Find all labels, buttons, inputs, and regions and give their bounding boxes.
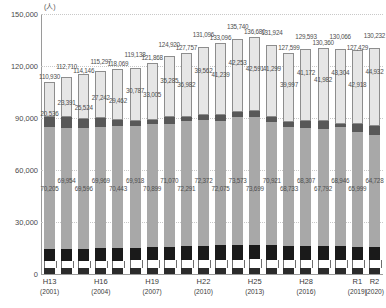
bar-segment-black-band xyxy=(164,247,175,260)
bar-middle-segment-label: 70,443 xyxy=(109,185,127,192)
bar-segment-light-top xyxy=(164,56,175,117)
bar-segment-black-band xyxy=(215,245,226,259)
stacked-bar[interactable] xyxy=(198,47,209,274)
bar-middle-segment-label: 64,728 xyxy=(365,177,383,184)
bar-column[interactable] xyxy=(41,14,58,274)
bar-top-segment-label: 42,591 xyxy=(246,65,264,72)
x-axis-group-label: H13(2001) xyxy=(40,277,59,296)
stacked-bar[interactable] xyxy=(164,56,175,274)
bar-column[interactable] xyxy=(366,14,383,274)
stacked-bar[interactable] xyxy=(130,68,141,274)
bar-column[interactable] xyxy=(349,14,366,274)
bar-segment-white-band xyxy=(283,260,296,268)
bar-top-segment-label: 42,253 xyxy=(229,59,247,66)
x-axis-year: (2020) xyxy=(365,287,384,297)
y-axis-tick-label: 0 xyxy=(0,270,38,279)
bar-column[interactable] xyxy=(212,14,229,274)
x-axis-year: (2013) xyxy=(245,287,264,297)
bar-column[interactable] xyxy=(332,14,349,274)
bar-segment-white-band xyxy=(300,260,313,268)
bar-segment-bottom-dark xyxy=(147,268,158,274)
bar-segment-white-band xyxy=(181,260,194,268)
bar-top-segment-label: 35,285 xyxy=(160,77,178,84)
stacked-bar[interactable] xyxy=(335,49,346,274)
bar-segment-black-band xyxy=(44,249,55,261)
bar-middle-segment-label: 73,573 xyxy=(229,177,247,184)
bar-segment-dark-grey xyxy=(95,118,106,127)
bar-segment-grey-main xyxy=(164,124,175,247)
bar-top-segment-label: 39,562 xyxy=(194,67,212,74)
bar-segment-dark-grey xyxy=(164,117,175,124)
bar-segment-grey-main xyxy=(215,121,226,246)
bar-top-segment-label: 36,982 xyxy=(177,81,195,88)
bar-segment-grey-main xyxy=(335,127,346,247)
y-axis-tick-label: 90,000 xyxy=(0,114,38,123)
bar-segment-dark-grey xyxy=(61,117,72,127)
bar-total-label: 133,096 xyxy=(210,34,231,41)
x-axis-labels: H13(2001)H16(2004)H19(2007)H22(2010)H25(… xyxy=(41,277,383,307)
x-axis-group-label: H16(2004) xyxy=(91,277,110,296)
bar-column[interactable] xyxy=(178,14,195,274)
bar-segment-white-band xyxy=(147,260,160,268)
bar-segment-black-band xyxy=(147,247,158,260)
bar-top-segment-label: 41,172 xyxy=(297,69,315,76)
bar-middle-segment-label: 72,291 xyxy=(177,185,195,192)
bar-segment-light-top xyxy=(61,77,72,118)
bar-segment-light-top xyxy=(232,39,243,112)
x-axis-group-label: H19(2007) xyxy=(143,277,162,296)
bar-column[interactable] xyxy=(75,14,92,274)
bar-segment-grey-main xyxy=(61,128,72,249)
bar-top-segment-label: 23,391 xyxy=(58,99,76,106)
bar-total-label: 114,146 xyxy=(73,67,94,74)
plot-area: 110,93020,53670,205112,71023,39169,95411… xyxy=(41,14,383,274)
bar-segment-white-band xyxy=(44,261,57,268)
bar-column[interactable] xyxy=(229,14,246,274)
bar-middle-segment-label: 72,372 xyxy=(194,177,212,184)
stacked-bar[interactable] xyxy=(266,45,277,274)
bar-column[interactable] xyxy=(280,14,297,274)
x-axis-era: R2 xyxy=(365,277,384,287)
bar-column[interactable] xyxy=(58,14,75,274)
bar-top-segment-label: 41,982 xyxy=(314,76,332,83)
bar-column[interactable] xyxy=(92,14,109,274)
stacked-bar[interactable] xyxy=(61,77,72,274)
bar-column[interactable] xyxy=(297,14,314,274)
bar-segment-grey-main xyxy=(130,126,141,247)
stacked-bar[interactable] xyxy=(300,49,311,274)
stacked-bar[interactable] xyxy=(369,48,380,274)
bar-segment-dark-grey xyxy=(44,117,55,127)
bar-segment-light-top xyxy=(369,48,380,126)
bar-segment-dark-grey xyxy=(369,126,380,135)
bar-top-segment-label: 41,239 xyxy=(212,71,230,78)
stacked-bar[interactable] xyxy=(249,37,260,274)
bar-segment-bottom-dark xyxy=(44,268,55,274)
bar-segment-black-band xyxy=(112,248,123,261)
bar-middle-segment-label: 70,899 xyxy=(143,185,161,192)
bar-column[interactable] xyxy=(161,14,178,274)
bar-middle-segment-label: 70,921 xyxy=(263,177,281,184)
bar-segment-bottom-dark xyxy=(249,268,260,274)
x-axis-era: H22 xyxy=(194,277,213,287)
y-axis-tick-label: 30,000 xyxy=(0,218,38,227)
y-axis-unit-label: (人) xyxy=(44,1,56,11)
bar-segment-black-band xyxy=(95,248,106,260)
bar-middle-segment-label: 70,205 xyxy=(41,185,59,192)
bar-column[interactable] xyxy=(195,14,212,274)
x-axis-era: H19 xyxy=(143,277,162,287)
bar-total-label: 127,429 xyxy=(347,44,368,51)
bar-total-label: 130,360 xyxy=(312,39,333,46)
stacked-bar[interactable] xyxy=(232,39,243,274)
bar-column[interactable] xyxy=(315,14,332,274)
bar-segment-black-band xyxy=(130,248,141,261)
bar-middle-segment-label: 72,075 xyxy=(212,185,230,192)
bar-segment-bottom-dark xyxy=(369,268,380,274)
x-axis-era: H25 xyxy=(245,277,264,287)
bar-segment-bottom-dark xyxy=(232,268,243,274)
bar-segment-dark-grey xyxy=(78,119,89,128)
bar-segment-white-band xyxy=(318,260,331,268)
bar-segment-bottom-dark xyxy=(61,268,72,274)
bar-column[interactable] xyxy=(246,14,263,274)
bar-column[interactable] xyxy=(263,14,280,274)
stacked-bar[interactable] xyxy=(95,71,106,274)
bar-segment-white-band xyxy=(130,260,143,268)
